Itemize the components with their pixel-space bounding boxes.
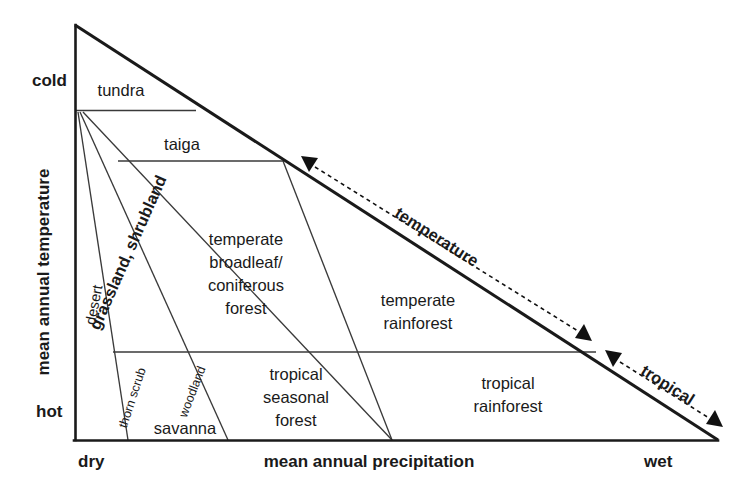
biome-label-woodland: woodland: [176, 364, 209, 420]
tropical-arrow-label: tropical: [638, 361, 698, 408]
biome-label-line: coniferous: [208, 276, 284, 294]
whittaker-biome-diagram: temperature tropical tundra taiga desert…: [0, 0, 755, 498]
y-axis-title: mean annual temperature: [34, 169, 53, 376]
biome-label-line: tropical: [481, 374, 534, 392]
biome-label-savanna: savanna: [154, 419, 217, 437]
biome-label-line: broadleaf/: [209, 253, 283, 271]
diagram-canvas: temperature tropical tundra taiga desert…: [0, 0, 755, 498]
biome-label-line: tropical: [269, 365, 322, 383]
tropical-arrowhead-end: [706, 410, 723, 427]
biome-label-line: forest: [275, 411, 317, 429]
biome-label-tropical-rainforest: tropical rainforest: [474, 374, 543, 415]
triangle-frame: [74, 25, 718, 441]
biome-label-taiga: taiga: [164, 135, 201, 153]
y-axis-top-label: cold: [32, 71, 67, 90]
biome-label-line: temperate: [381, 291, 455, 309]
hypotenuse-line: [75, 25, 718, 440]
tropical-arrowhead-start: [605, 350, 622, 367]
biome-label-line: rainforest: [474, 397, 543, 415]
y-axis-bottom-label: hot: [36, 402, 63, 421]
temperature-arrowhead-end: [575, 324, 592, 341]
biome-label-grassland-shrubland: grassland, shrubland: [85, 172, 169, 332]
temperature-arrowhead-start: [301, 156, 318, 172]
biome-label-temperate-broadleaf-coniferous-forest: temperate broadleaf/ coniferous forest: [208, 230, 284, 317]
x-axis-right-label: wet: [643, 452, 673, 471]
biome-label-line: temperate: [209, 230, 283, 248]
x-axis-left-label: dry: [78, 452, 105, 471]
biome-label-tundra: tundra: [98, 81, 146, 99]
biome-label-line: rainforest: [384, 314, 453, 332]
biome-label-temperate-rainforest: temperate rainforest: [381, 291, 455, 332]
biome-label-line: seasonal: [263, 388, 329, 406]
biome-label-tropical-seasonal-forest: tropical seasonal forest: [263, 365, 329, 429]
biome-label-line: forest: [225, 299, 267, 317]
x-axis-title: mean annual precipitation: [264, 452, 475, 471]
